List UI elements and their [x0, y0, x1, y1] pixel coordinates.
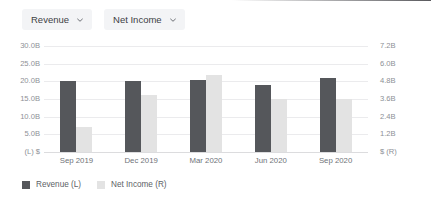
right-axis-tick-label: 1.2B: [380, 130, 396, 138]
left-axis-unit-label: (L) $: [24, 148, 40, 156]
bar-group[interactable]: [125, 46, 157, 152]
chevron-down-icon: [169, 16, 177, 24]
x-axis-tick-label: Jun 2020: [239, 155, 303, 167]
right-axis-tick-label: 7.2B: [380, 42, 396, 50]
right-axis-tick-label: 6.0B: [380, 60, 396, 68]
left-axis-tick-label: 5.0B: [24, 130, 40, 138]
bar-revenue[interactable]: [190, 80, 206, 152]
bar-net-income[interactable]: [271, 99, 287, 152]
left-axis-tick-label: 25.0B: [20, 60, 40, 68]
bar-group[interactable]: [320, 46, 352, 152]
revenue-dropdown-label: Revenue: [31, 12, 69, 27]
bar-net-income[interactable]: [141, 95, 157, 152]
right-y-axis: 7.2B6.0B4.8B3.6B2.4B1.2B$ (R): [380, 40, 426, 160]
bar-net-income[interactable]: [206, 75, 222, 152]
x-axis-tick-label: Sep 2020: [304, 155, 368, 167]
right-axis-tick-label: 2.4B: [380, 113, 396, 121]
revenue-metric-dropdown[interactable]: Revenue: [22, 9, 92, 30]
bar-group[interactable]: [255, 46, 287, 152]
bar-group[interactable]: [190, 46, 222, 152]
bar-groups: [44, 46, 368, 152]
chart-legend: Revenue (L) Net Income (R): [22, 180, 167, 189]
left-axis-tick-label: 10.0B: [20, 113, 40, 121]
legend-label-net-income: Net Income (R): [111, 180, 167, 189]
x-axis-tick-label: Sep 2019: [44, 155, 108, 167]
x-axis-labels: Sep 2019Dec 2019Mar 2020Jun 2020Sep 2020: [44, 155, 368, 167]
left-axis-tick-label: 20.0B: [20, 77, 40, 85]
x-axis-tick-label: Dec 2019: [109, 155, 173, 167]
legend-swatch-net-income: [97, 181, 105, 189]
x-axis-baseline: [44, 152, 368, 153]
right-axis-tick-label: 3.6B: [380, 95, 396, 103]
legend-item-net-income[interactable]: Net Income (R): [97, 180, 167, 189]
legend-item-revenue[interactable]: Revenue (L): [22, 180, 81, 189]
legend-swatch-revenue: [22, 181, 30, 189]
top-divider: [232, 0, 431, 1]
bar-revenue[interactable]: [320, 78, 336, 152]
right-axis-unit-label: $ (R): [380, 148, 397, 156]
bar-net-income[interactable]: [76, 127, 92, 152]
financial-bar-chart-widget: Revenue Net Income 30.0B25.0B20.0B15.0B1…: [0, 0, 431, 201]
chevron-down-icon: [76, 16, 84, 24]
bar-revenue[interactable]: [125, 81, 141, 152]
bar-revenue[interactable]: [60, 81, 76, 152]
net-income-dropdown-label: Net Income: [113, 12, 162, 27]
right-axis-tick-label: 4.8B: [380, 77, 396, 85]
bar-revenue[interactable]: [255, 85, 271, 152]
left-y-axis: 30.0B25.0B20.0B15.0B10.0B5.0B(L) $: [8, 40, 40, 160]
bar-net-income[interactable]: [336, 99, 352, 152]
x-axis-tick-label: Mar 2020: [174, 155, 238, 167]
left-axis-tick-label: 15.0B: [20, 95, 40, 103]
left-axis-tick-label: 30.0B: [20, 42, 40, 50]
metric-selector-toolbar: Revenue Net Income: [22, 9, 185, 30]
legend-label-revenue: Revenue (L): [36, 180, 81, 189]
bar-group[interactable]: [60, 46, 92, 152]
net-income-metric-dropdown[interactable]: Net Income: [104, 9, 185, 30]
